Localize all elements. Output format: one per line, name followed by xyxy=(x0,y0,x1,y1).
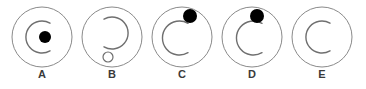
figure-series-panel: A B C D E xyxy=(0,0,366,89)
filled-dot-marker xyxy=(183,9,197,23)
figure-e-graphic xyxy=(287,0,357,70)
figure-d-graphic xyxy=(217,0,287,70)
outer-circle xyxy=(292,7,352,67)
filled-dot-marker xyxy=(250,9,264,23)
figure-b-graphic xyxy=(77,0,147,70)
inner-arc-open-right xyxy=(236,21,262,55)
inner-arc-open-right xyxy=(306,21,330,53)
figure-label-d: D xyxy=(217,68,287,81)
figure-label-c: C xyxy=(147,68,217,81)
figure-label-e: E xyxy=(287,68,357,81)
figure-option-d[interactable]: D xyxy=(217,0,287,89)
figure-a-graphic xyxy=(7,0,77,70)
outer-circle xyxy=(152,7,212,67)
figure-c-graphic xyxy=(147,0,217,70)
figure-option-c[interactable]: C xyxy=(147,0,217,89)
figure-label-b: B xyxy=(77,68,147,81)
open-circle-marker xyxy=(103,52,113,62)
figure-option-e[interactable]: E xyxy=(287,0,357,89)
inner-arc-open-right xyxy=(162,21,188,55)
inner-arc-open-left xyxy=(104,17,128,49)
figure-label-a: A xyxy=(7,68,77,81)
figure-option-b[interactable]: B xyxy=(77,0,147,89)
figure-option-a[interactable]: A xyxy=(7,0,77,89)
filled-dot-marker xyxy=(39,31,51,43)
